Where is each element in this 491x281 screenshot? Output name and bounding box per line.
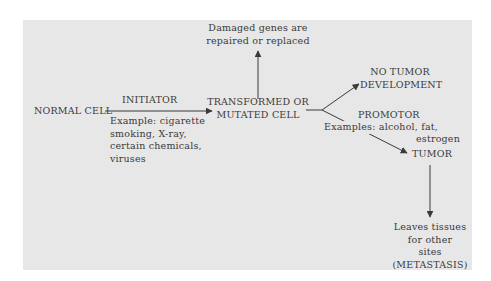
no-tumor-line: DEVELOPMENT bbox=[360, 79, 440, 92]
normal-cell-node: NORMAL CELL bbox=[34, 105, 112, 118]
metastasis-line: (METASTASIS) bbox=[382, 259, 478, 272]
initiator-example-line: smoking, X-ray, bbox=[110, 128, 205, 141]
metastasis-line: sites bbox=[382, 246, 478, 259]
metastasis-node: Leaves tissues for other sites (METASTAS… bbox=[382, 221, 478, 271]
tumor-node: TUMOR bbox=[412, 148, 452, 161]
promotor-examples-line-1: Examples: alcohol, fat, bbox=[323, 121, 439, 134]
initiator-label: INITIATOR bbox=[122, 94, 177, 107]
initiator-example-line: certain chemicals, bbox=[110, 140, 205, 153]
transformed-cell-line: TRANSFORMED OR bbox=[206, 96, 310, 109]
metastasis-line: for other bbox=[382, 234, 478, 247]
metastasis-line: Leaves tissues bbox=[382, 221, 478, 234]
promotor-label: PROMOTOR bbox=[358, 109, 420, 122]
initiator-examples: Example: cigarette smoking, X-ray, certa… bbox=[110, 115, 205, 165]
repaired-line: Damaged genes are bbox=[196, 22, 320, 35]
initiator-example-line: Example: cigarette bbox=[110, 115, 205, 128]
no-tumor-node: NO TUMOR DEVELOPMENT bbox=[360, 66, 440, 91]
no-tumor-line: NO TUMOR bbox=[360, 66, 440, 79]
repaired-line: repaired or replaced bbox=[196, 35, 320, 48]
initiator-example-line: viruses bbox=[110, 153, 205, 166]
promotor-examples-line-2: estrogen bbox=[416, 133, 460, 146]
repaired-node: Damaged genes are repaired or replaced bbox=[196, 22, 320, 47]
transformed-cell-line: MUTATED CELL bbox=[206, 109, 310, 122]
transformed-cell-node: TRANSFORMED OR MUTATED CELL bbox=[206, 96, 310, 121]
